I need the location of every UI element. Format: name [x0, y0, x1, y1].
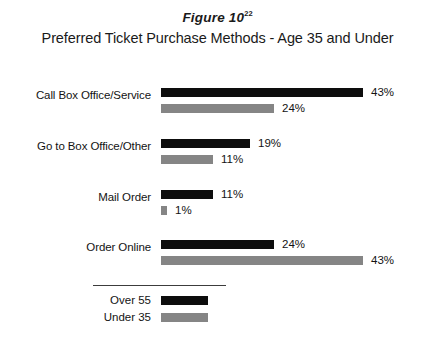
category-label: Go to Box Office/Other: [0, 140, 151, 152]
bar-value-label: 11%: [221, 153, 243, 165]
category-label: Order Online: [0, 241, 151, 253]
legend-separator-rule: [93, 285, 226, 286]
figure-container: Figure 1022 Preferred Ticket Purchase Me…: [0, 0, 435, 346]
bar-value-label: 11%: [221, 188, 243, 200]
bar-row: 24%: [161, 240, 344, 249]
bar-row: 1%: [161, 206, 237, 215]
legend-label: Over 55: [0, 294, 151, 306]
legend-label: Under 35: [0, 311, 151, 323]
legend-swatch-under35: [161, 313, 208, 322]
bar-over55: [161, 139, 250, 148]
category-label: Mail Order: [0, 191, 151, 203]
bar-row: 43%: [161, 88, 433, 97]
legend-swatch-over55: [161, 296, 208, 305]
bar-value-label: 43%: [371, 254, 394, 266]
bar-under35: [161, 155, 213, 164]
bar-row: 43%: [161, 256, 433, 265]
bar-value-label: 19%: [258, 137, 281, 149]
bar-value-label: 24%: [282, 102, 305, 114]
category-label: Call Box Office/Service: [0, 89, 151, 101]
legend-item-under35: Under 35: [0, 311, 435, 324]
bar-value-label: 43%: [371, 86, 394, 98]
bar-value-label: 1%: [175, 204, 192, 216]
bar-under35: [161, 256, 363, 265]
bar-row: 19%: [161, 139, 320, 148]
bar-under35: [161, 206, 167, 215]
legend-item-over55: Over 55: [0, 294, 435, 307]
bar-over55: [161, 190, 213, 199]
bar-row: 11%: [161, 155, 283, 164]
bar-value-label: 24%: [282, 238, 305, 250]
bar-over55: [161, 88, 363, 97]
bar-over55: [161, 240, 274, 249]
bar-row: 24%: [161, 104, 344, 113]
bar-under35: [161, 104, 274, 113]
bar-row: 11%: [161, 190, 283, 199]
